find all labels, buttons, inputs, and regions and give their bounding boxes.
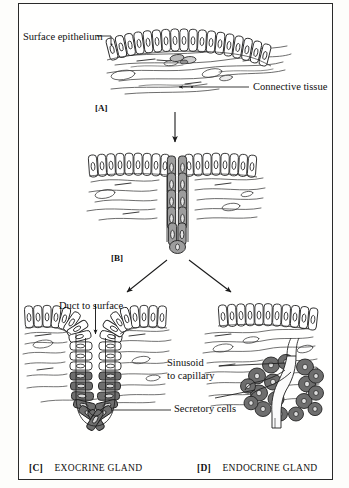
surface-epithelium-d bbox=[218, 304, 318, 331]
label-sinusoid-line2: to capillary bbox=[167, 370, 215, 382]
epithelial-cord-b bbox=[167, 156, 188, 254]
panel-caption-c-text: EXOCRINE GLAND bbox=[54, 463, 142, 473]
panel-caption-d: [D] ENDOCRINE GLAND bbox=[197, 463, 317, 473]
arrow-b-to-c bbox=[127, 260, 167, 292]
arrow-b-to-d bbox=[189, 260, 231, 292]
label-surface-epithelium: Surface epithelium bbox=[23, 31, 103, 43]
label-sinusoid-line1: Sinusoid bbox=[167, 357, 204, 369]
panel-c-artwork bbox=[23, 304, 171, 432]
panel-caption-d-text: ENDOCRINE GLAND bbox=[222, 463, 317, 473]
panel-caption-c: [C] EXOCRINE GLAND bbox=[29, 463, 142, 473]
panel-tag-a: [A] bbox=[95, 103, 108, 113]
panel-b-artwork bbox=[87, 153, 265, 253]
connective-tissue-c bbox=[23, 330, 171, 404]
label-connective-tissue: Connective tissue bbox=[253, 81, 327, 93]
label-secretory-cells: Secretory cells bbox=[174, 403, 236, 415]
label-duct-to-surface: Duct to surface bbox=[59, 300, 123, 312]
figure-frame: Surface epithelium Connective tissue Duc… bbox=[18, 3, 333, 480]
panel-tag-d: [D] bbox=[197, 463, 211, 473]
panel-tag-b: [B] bbox=[111, 253, 123, 263]
panel-tag-c: [C] bbox=[29, 463, 43, 473]
